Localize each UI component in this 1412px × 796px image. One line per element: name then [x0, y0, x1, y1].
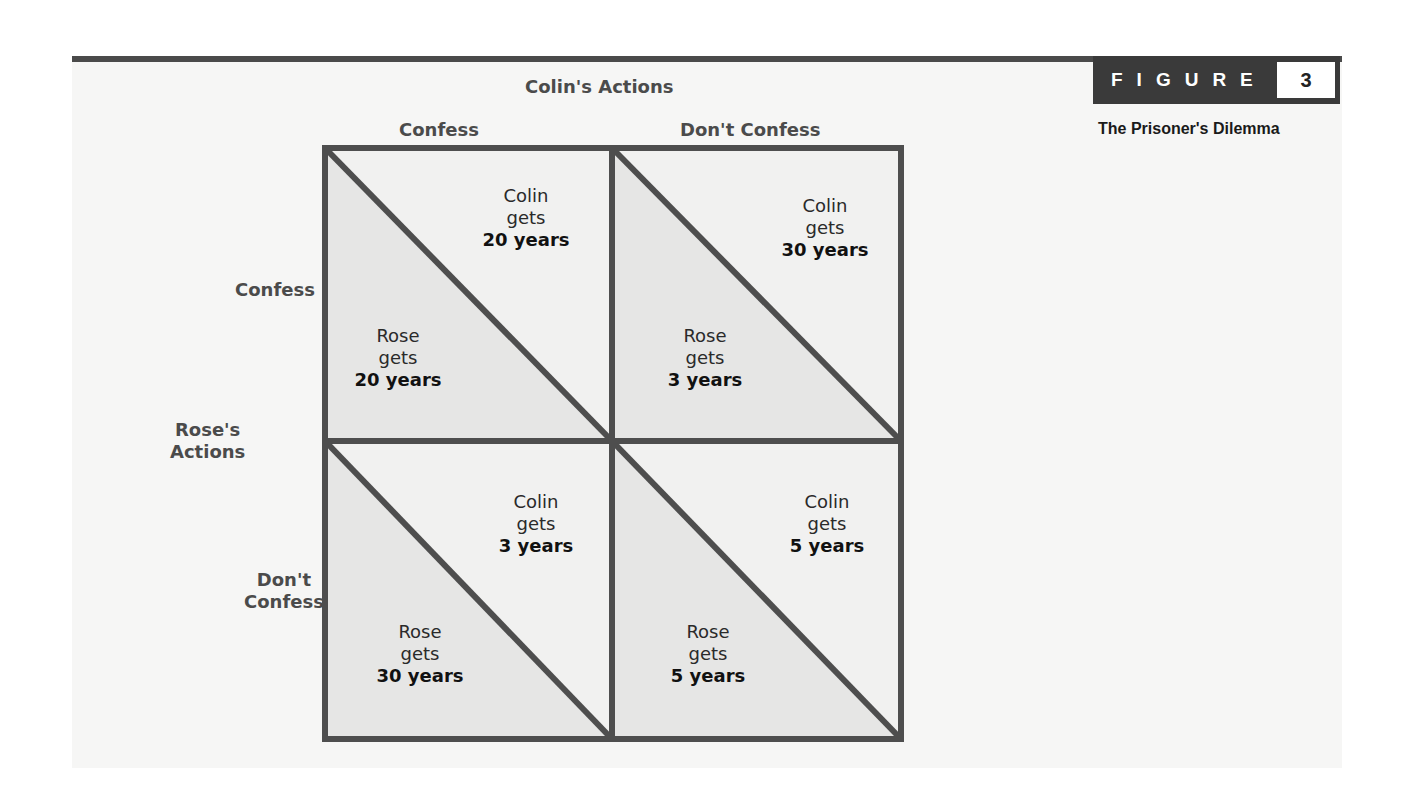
- row-header-confess: Confess: [235, 279, 315, 301]
- player-name: Rose: [360, 621, 480, 643]
- column-header-dont-confess: Don't Confess: [680, 119, 820, 141]
- sentence-years: 20 years: [338, 369, 458, 391]
- row-player-title: Rose's Actions: [170, 419, 245, 463]
- player-name: Colin: [765, 195, 885, 217]
- verb: gets: [765, 217, 885, 239]
- row-player-title-line2: Actions: [170, 441, 245, 463]
- payoff-matrix: Colin gets 20 years Rose gets 20 years C…: [322, 145, 904, 742]
- payoff-colin-rose-dont-colin-confess: Colin gets 3 years: [476, 491, 596, 557]
- player-name: Colin: [466, 185, 586, 207]
- player-name: Rose: [645, 325, 765, 347]
- sentence-years: 5 years: [648, 665, 768, 687]
- payoff-rose-rose-confess-colin-dont: Rose gets 3 years: [645, 325, 765, 391]
- sentence-years: 30 years: [765, 239, 885, 261]
- verb: gets: [360, 643, 480, 665]
- sentence-years: 30 years: [360, 665, 480, 687]
- sentence-years: 5 years: [767, 535, 887, 557]
- column-player-title: Colin's Actions: [525, 76, 674, 98]
- payoff-colin-rose-confess-colin-dont: Colin gets 30 years: [765, 195, 885, 261]
- sentence-years: 3 years: [645, 369, 765, 391]
- sentence-years: 20 years: [466, 229, 586, 251]
- player-name: Colin: [476, 491, 596, 513]
- verb: gets: [648, 643, 768, 665]
- verb: gets: [338, 347, 458, 369]
- verb: gets: [476, 513, 596, 535]
- payoff-rose-confess-confess: Rose gets 20 years: [338, 325, 458, 391]
- verb: gets: [645, 347, 765, 369]
- figure-title: The Prisoner's Dilemma: [1098, 120, 1280, 138]
- verb: gets: [767, 513, 887, 535]
- row-header-dont-confess: Don't Confess: [244, 569, 324, 613]
- row-header-dont-confess-line2: Confess: [244, 591, 324, 613]
- player-name: Colin: [767, 491, 887, 513]
- figure-number: 3: [1277, 62, 1335, 98]
- payoff-rose-rose-dont-colin-confess: Rose gets 30 years: [360, 621, 480, 687]
- payoff-colin-dont-dont: Colin gets 5 years: [767, 491, 887, 557]
- payoff-colin-confess-confess: Colin gets 20 years: [466, 185, 586, 251]
- row-header-dont-confess-line1: Don't: [244, 569, 324, 591]
- player-name: Rose: [648, 621, 768, 643]
- sentence-years: 3 years: [476, 535, 596, 557]
- column-header-confess: Confess: [399, 119, 479, 141]
- verb: gets: [466, 207, 586, 229]
- figure-label: FIGURE: [1093, 69, 1275, 91]
- figure-badge: FIGURE 3: [1093, 56, 1340, 104]
- row-player-title-line1: Rose's: [170, 419, 245, 441]
- player-name: Rose: [338, 325, 458, 347]
- payoff-rose-dont-dont: Rose gets 5 years: [648, 621, 768, 687]
